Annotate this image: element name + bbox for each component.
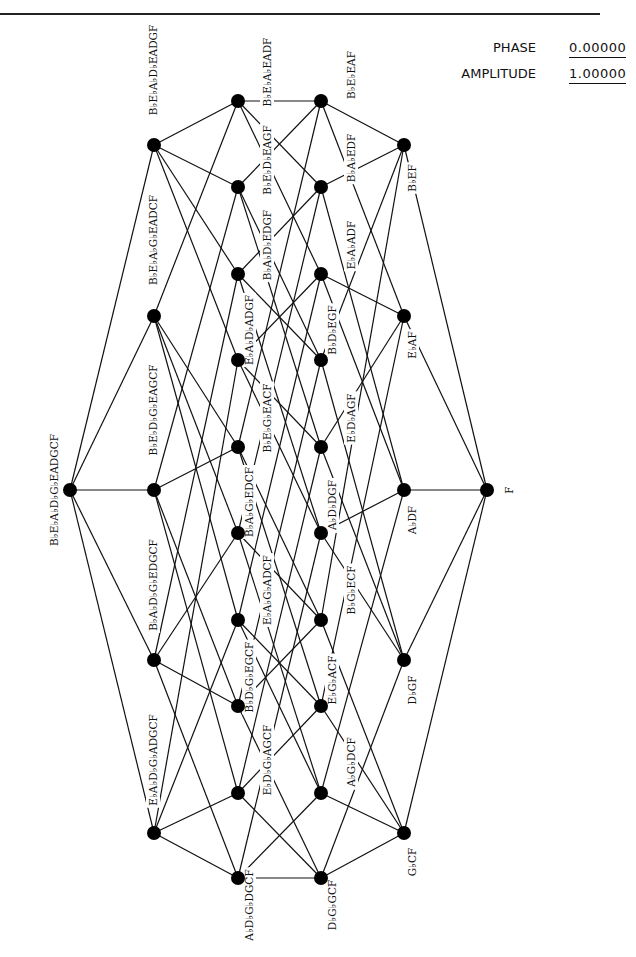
node-labels: B♭E♭A♭D♭G♭EADGCFB♭E♭A♭D♭EADGFB♭E♭A♭G♭EAD… xyxy=(47,23,516,944)
lattice-node[interactable] xyxy=(147,826,161,840)
edge xyxy=(238,101,321,447)
edge xyxy=(154,660,238,878)
node-label: B♭D♭G♭EGCF xyxy=(243,642,255,713)
lattice-node[interactable] xyxy=(147,138,161,152)
lattice-node[interactable] xyxy=(397,826,411,840)
lattice-node[interactable] xyxy=(231,440,245,454)
node-label: E♭A♭G♭ADCF xyxy=(261,555,273,625)
edge xyxy=(154,187,238,490)
node-label: B♭E♭A♭D♭EADGF xyxy=(147,25,159,116)
node-label: B♭E♭A♭G♭EADCF xyxy=(147,195,159,285)
edges xyxy=(70,101,487,878)
edge xyxy=(70,490,154,660)
lattice-node[interactable] xyxy=(147,653,161,667)
node-label: B♭E♭A♭EADF xyxy=(261,38,273,107)
lattice-node[interactable] xyxy=(63,483,77,497)
edge xyxy=(238,187,321,274)
node-label: A♭DF xyxy=(406,506,418,535)
node-label: G♭CF xyxy=(406,848,418,877)
node-label-group: E♭AF xyxy=(405,329,419,361)
edge xyxy=(238,101,321,274)
lattice-node[interactable] xyxy=(397,483,411,497)
node-label-group: B♭E♭A♭D♭G♭EADGCF xyxy=(47,432,61,548)
lattice-node[interactable] xyxy=(397,309,411,323)
node-label-group: B♭E♭D♭G♭EAGCF xyxy=(146,363,160,458)
edge xyxy=(154,101,238,316)
node-label-group: G♭CF xyxy=(405,846,419,879)
edge xyxy=(404,490,487,833)
lattice-node[interactable] xyxy=(314,94,328,108)
lattice-node[interactable] xyxy=(147,483,161,497)
node-label-group: B♭D♭EGF xyxy=(325,303,339,356)
lattice-node[interactable] xyxy=(231,699,245,713)
lattice-node[interactable] xyxy=(480,483,494,497)
lattice-node[interactable] xyxy=(147,309,161,323)
lattice-node[interactable] xyxy=(314,613,328,627)
lattice-node[interactable] xyxy=(314,871,328,885)
edge xyxy=(238,360,321,447)
edge xyxy=(238,706,321,878)
lattice-node[interactable] xyxy=(231,180,245,194)
node-label-group: B♭A♭D♭G♭EDGCF xyxy=(146,537,160,633)
node-label: B♭A♭G♭EDCF xyxy=(243,467,255,537)
edge xyxy=(154,620,238,833)
node-label-group: D♭GF xyxy=(405,673,419,706)
edge xyxy=(321,101,404,316)
edge xyxy=(238,706,321,793)
edge xyxy=(154,316,238,447)
node-label-group: E♭D♭AGF xyxy=(344,391,358,444)
node-label: B♭E♭EAF xyxy=(345,51,357,99)
lattice-node[interactable] xyxy=(314,353,328,367)
lattice-node[interactable] xyxy=(231,526,245,540)
node-label-group: B♭E♭D♭EAGF xyxy=(260,123,274,197)
node-label-group: A♭D♭DGF xyxy=(325,478,339,533)
edge xyxy=(154,145,238,187)
node-label-group: A♭G♭DCF xyxy=(344,735,358,790)
node-label: B♭D♭EGF xyxy=(326,305,338,354)
lattice-node[interactable] xyxy=(314,526,328,540)
edge xyxy=(154,274,238,660)
edge xyxy=(404,145,487,490)
lattice-node[interactable] xyxy=(231,353,245,367)
node-label: E♭D♭AGF xyxy=(345,393,357,442)
lattice-node[interactable] xyxy=(397,653,411,667)
node-label: F xyxy=(503,486,515,493)
node-label-group: B♭E♭A♭EADF xyxy=(260,36,274,109)
node-label: B♭A♭EDF xyxy=(345,134,357,183)
lattice-node[interactable] xyxy=(314,440,328,454)
node-label: B♭E♭D♭G♭EAGCF xyxy=(147,365,159,456)
lattice-node[interactable] xyxy=(231,613,245,627)
edge xyxy=(70,316,154,490)
edge xyxy=(154,360,238,833)
node-label-group: B♭G♭ECF xyxy=(344,564,358,617)
lattice-node[interactable] xyxy=(231,786,245,800)
lattice-node[interactable] xyxy=(231,94,245,108)
node-label-group: E♭A♭ADF xyxy=(344,219,358,271)
node-label-group: B♭A♭EDF xyxy=(344,132,358,185)
node-label: E♭A♭D♭ADGF xyxy=(243,295,255,365)
node-label-group: B♭EF xyxy=(405,162,419,194)
lattice-node[interactable] xyxy=(314,786,328,800)
edge xyxy=(154,660,238,706)
edge xyxy=(154,101,238,145)
lattice-node[interactable] xyxy=(314,699,328,713)
node-label: E♭AF xyxy=(406,331,418,359)
node-label-group: D♭G♭GCF xyxy=(325,878,339,932)
node-label-group: F xyxy=(502,484,516,495)
node-label-group: E♭G♭ACF xyxy=(325,654,339,707)
node-label-group: E♭A♭D♭ADGF xyxy=(242,293,256,367)
edge xyxy=(70,490,154,833)
node-label-group: B♭E♭EAF xyxy=(344,49,358,101)
node-label: D♭GF xyxy=(406,675,418,704)
lattice-node[interactable] xyxy=(314,267,328,281)
node-label-group: B♭A♭G♭EDCF xyxy=(242,465,256,539)
lattice-diagram: B♭E♭A♭D♭G♭EADGCFB♭E♭A♭D♭EADGFB♭E♭A♭G♭EAD… xyxy=(0,0,636,957)
lattice-node[interactable] xyxy=(397,138,411,152)
node-label: A♭D♭G♭DGCF xyxy=(243,869,255,941)
node-label: A♭D♭DGF xyxy=(326,480,338,531)
lattice-node[interactable] xyxy=(231,871,245,885)
node-label-group: B♭E♭A♭G♭EADCF xyxy=(146,193,160,287)
lattice-node[interactable] xyxy=(231,267,245,281)
lattice-node[interactable] xyxy=(314,180,328,194)
edge xyxy=(321,620,404,833)
